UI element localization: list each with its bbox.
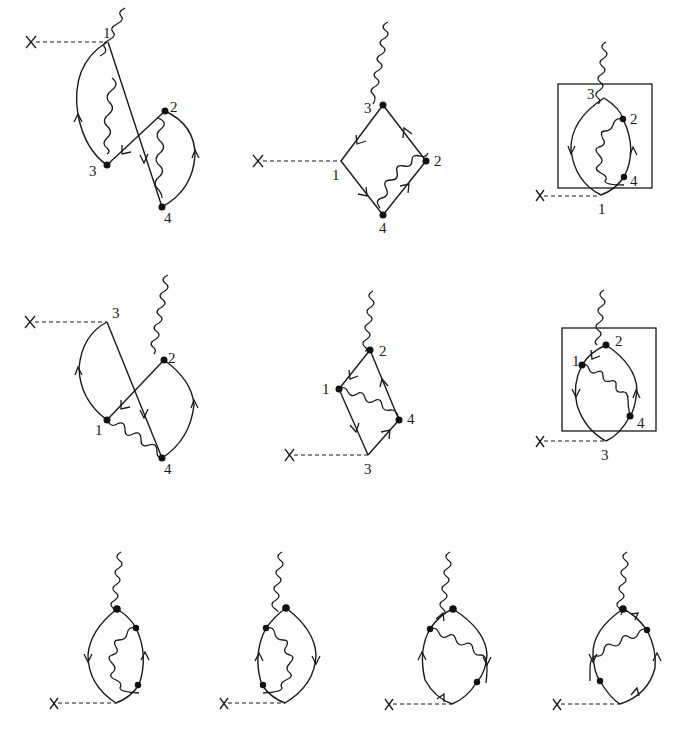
vertex-dot bbox=[113, 605, 121, 613]
source-x-icon bbox=[50, 698, 58, 709]
fermion-line bbox=[341, 105, 383, 161]
internal-photon bbox=[590, 629, 647, 681]
external-photon bbox=[151, 275, 168, 354]
vertex-label: 1 bbox=[322, 381, 330, 397]
vertex-dot bbox=[104, 417, 111, 424]
internal-photon bbox=[596, 119, 624, 185]
external-photon bbox=[595, 290, 605, 345]
vertex-dot bbox=[423, 158, 430, 165]
diagram-9 bbox=[385, 552, 491, 710]
vertex-dot bbox=[427, 626, 433, 632]
external-photon bbox=[371, 22, 388, 104]
vertex-label: 4 bbox=[164, 461, 172, 477]
vertex-label: 2 bbox=[379, 343, 387, 359]
source-x-icon bbox=[26, 36, 36, 48]
fermion-line bbox=[88, 609, 117, 703]
internal-photon bbox=[430, 628, 487, 683]
vertex-dot bbox=[621, 174, 627, 180]
fermion-line bbox=[162, 360, 194, 458]
arrow-icon bbox=[255, 653, 263, 661]
internal-photon bbox=[104, 78, 116, 154]
vertex-label: 4 bbox=[164, 210, 172, 226]
source-x-icon bbox=[553, 699, 561, 710]
vertex-label: 4 bbox=[637, 415, 645, 431]
fermion-line bbox=[77, 42, 107, 165]
vertex-label: 3 bbox=[364, 461, 372, 477]
fermion-line bbox=[339, 389, 368, 455]
vertex-label: 4 bbox=[379, 220, 387, 236]
source-x-icon bbox=[220, 698, 228, 709]
vertex-dot bbox=[396, 417, 403, 424]
fermion-line bbox=[107, 360, 164, 420]
vertex-dot bbox=[336, 386, 343, 393]
vertex-dot bbox=[161, 357, 168, 364]
internal-photon bbox=[339, 388, 399, 420]
vertex-label: 2 bbox=[168, 350, 176, 366]
vertex-dot bbox=[644, 627, 650, 633]
vertex-dot bbox=[597, 678, 603, 684]
vertex-dot bbox=[620, 116, 626, 122]
diagram-6: 2 1 4 3 bbox=[536, 290, 656, 463]
source-x-icon bbox=[25, 316, 35, 328]
vertex-dot bbox=[263, 625, 269, 631]
vertex-label: 3 bbox=[89, 163, 97, 179]
vertex-dot bbox=[474, 679, 480, 685]
vertex-dot bbox=[380, 102, 387, 109]
vertex-dot bbox=[162, 108, 169, 115]
diagram-5: 2 1 4 3 bbox=[285, 291, 415, 477]
vertex-dot bbox=[619, 605, 627, 613]
vertex-dot bbox=[367, 347, 374, 354]
vertex-label: 1 bbox=[598, 201, 606, 217]
vertex-dot bbox=[380, 212, 387, 219]
diagram-8 bbox=[220, 552, 320, 709]
source-x-icon bbox=[385, 699, 393, 710]
external-photon bbox=[272, 552, 283, 612]
vertex-dot bbox=[104, 162, 111, 169]
diagram-7 bbox=[50, 552, 149, 709]
vertex-label: 2 bbox=[615, 333, 623, 349]
vertex-dot bbox=[135, 682, 141, 688]
fermion-line bbox=[452, 609, 487, 704]
internal-photon bbox=[109, 628, 139, 693]
external-photon bbox=[363, 291, 374, 351]
vertex-dot bbox=[603, 342, 610, 349]
vertex-label: 3 bbox=[601, 447, 609, 463]
vertex-label: 1 bbox=[103, 25, 111, 41]
diagram-10 bbox=[553, 552, 661, 710]
fermion-line bbox=[107, 322, 162, 458]
fermion-line bbox=[606, 345, 637, 441]
source-x-icon bbox=[253, 155, 263, 167]
vertex-label: 3 bbox=[364, 100, 372, 116]
diagram-1: 1 2 3 4 bbox=[26, 8, 199, 226]
vertex-dot bbox=[260, 682, 266, 688]
fermion-line bbox=[339, 350, 370, 389]
internal-photon bbox=[263, 628, 293, 693]
diagram-2: 3 1 2 4 bbox=[253, 22, 442, 236]
vertex-label: 3 bbox=[112, 305, 120, 321]
internal-photon bbox=[582, 365, 630, 417]
vertex-dot bbox=[133, 625, 139, 631]
external-photon bbox=[596, 42, 607, 104]
vertex-label: 2 bbox=[170, 99, 178, 115]
fermion-line bbox=[383, 161, 426, 215]
vertex-dot bbox=[449, 605, 457, 613]
source-x-icon bbox=[536, 436, 544, 447]
external-photon bbox=[440, 552, 451, 614]
fermion-line bbox=[341, 161, 383, 215]
vertex-label: 1 bbox=[95, 422, 103, 438]
fermion-line bbox=[422, 609, 453, 704]
fermion-line bbox=[79, 322, 107, 420]
vertex-label: 1 bbox=[332, 167, 340, 183]
external-photon bbox=[111, 552, 122, 612]
internal-photon bbox=[377, 153, 428, 208]
vertex-label: 2 bbox=[434, 153, 442, 169]
source-x-icon bbox=[536, 190, 544, 201]
vertex-label: 2 bbox=[630, 111, 638, 127]
vertex-dot bbox=[579, 362, 586, 369]
vertex-dot bbox=[627, 413, 634, 420]
diagram-3: 3 2 4 1 bbox=[536, 42, 652, 217]
fermion-line bbox=[368, 420, 399, 455]
fermion-line bbox=[575, 345, 606, 441]
vertex-dot bbox=[282, 604, 290, 612]
fermion-line bbox=[383, 105, 426, 161]
